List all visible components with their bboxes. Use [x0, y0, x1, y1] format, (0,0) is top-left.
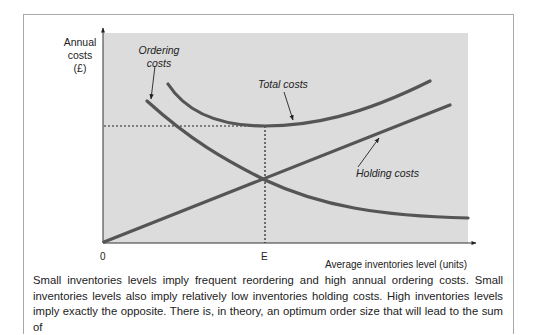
- ordering-label-line: costs: [137, 57, 181, 70]
- ordering-costs-label: Ordering costs: [137, 44, 181, 70]
- e-tick: E: [261, 250, 268, 263]
- holding-costs-label: Holding costs: [356, 167, 419, 180]
- ordering-label-line: Ordering: [137, 44, 181, 57]
- y-axis-label-line: Annual: [58, 36, 102, 49]
- total-costs-label: Total costs: [258, 78, 308, 91]
- y-axis-label: Annual costs (£): [58, 36, 102, 75]
- figure-caption: Small inventories levels imply frequent …: [33, 273, 503, 335]
- y-axis-label-line: costs: [58, 49, 102, 62]
- y-axis-label-line: (£): [58, 62, 102, 75]
- origin-tick: 0: [100, 250, 106, 263]
- x-axis-label: Average inventories level (units): [325, 258, 467, 271]
